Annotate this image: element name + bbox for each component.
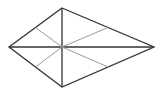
midline-bottom-right bbox=[62, 47, 108, 67]
midline-top-left bbox=[36, 28, 63, 48]
kite-diagram bbox=[0, 0, 164, 92]
midline-bottom-left bbox=[36, 47, 63, 67]
midline-top-right bbox=[62, 28, 108, 48]
